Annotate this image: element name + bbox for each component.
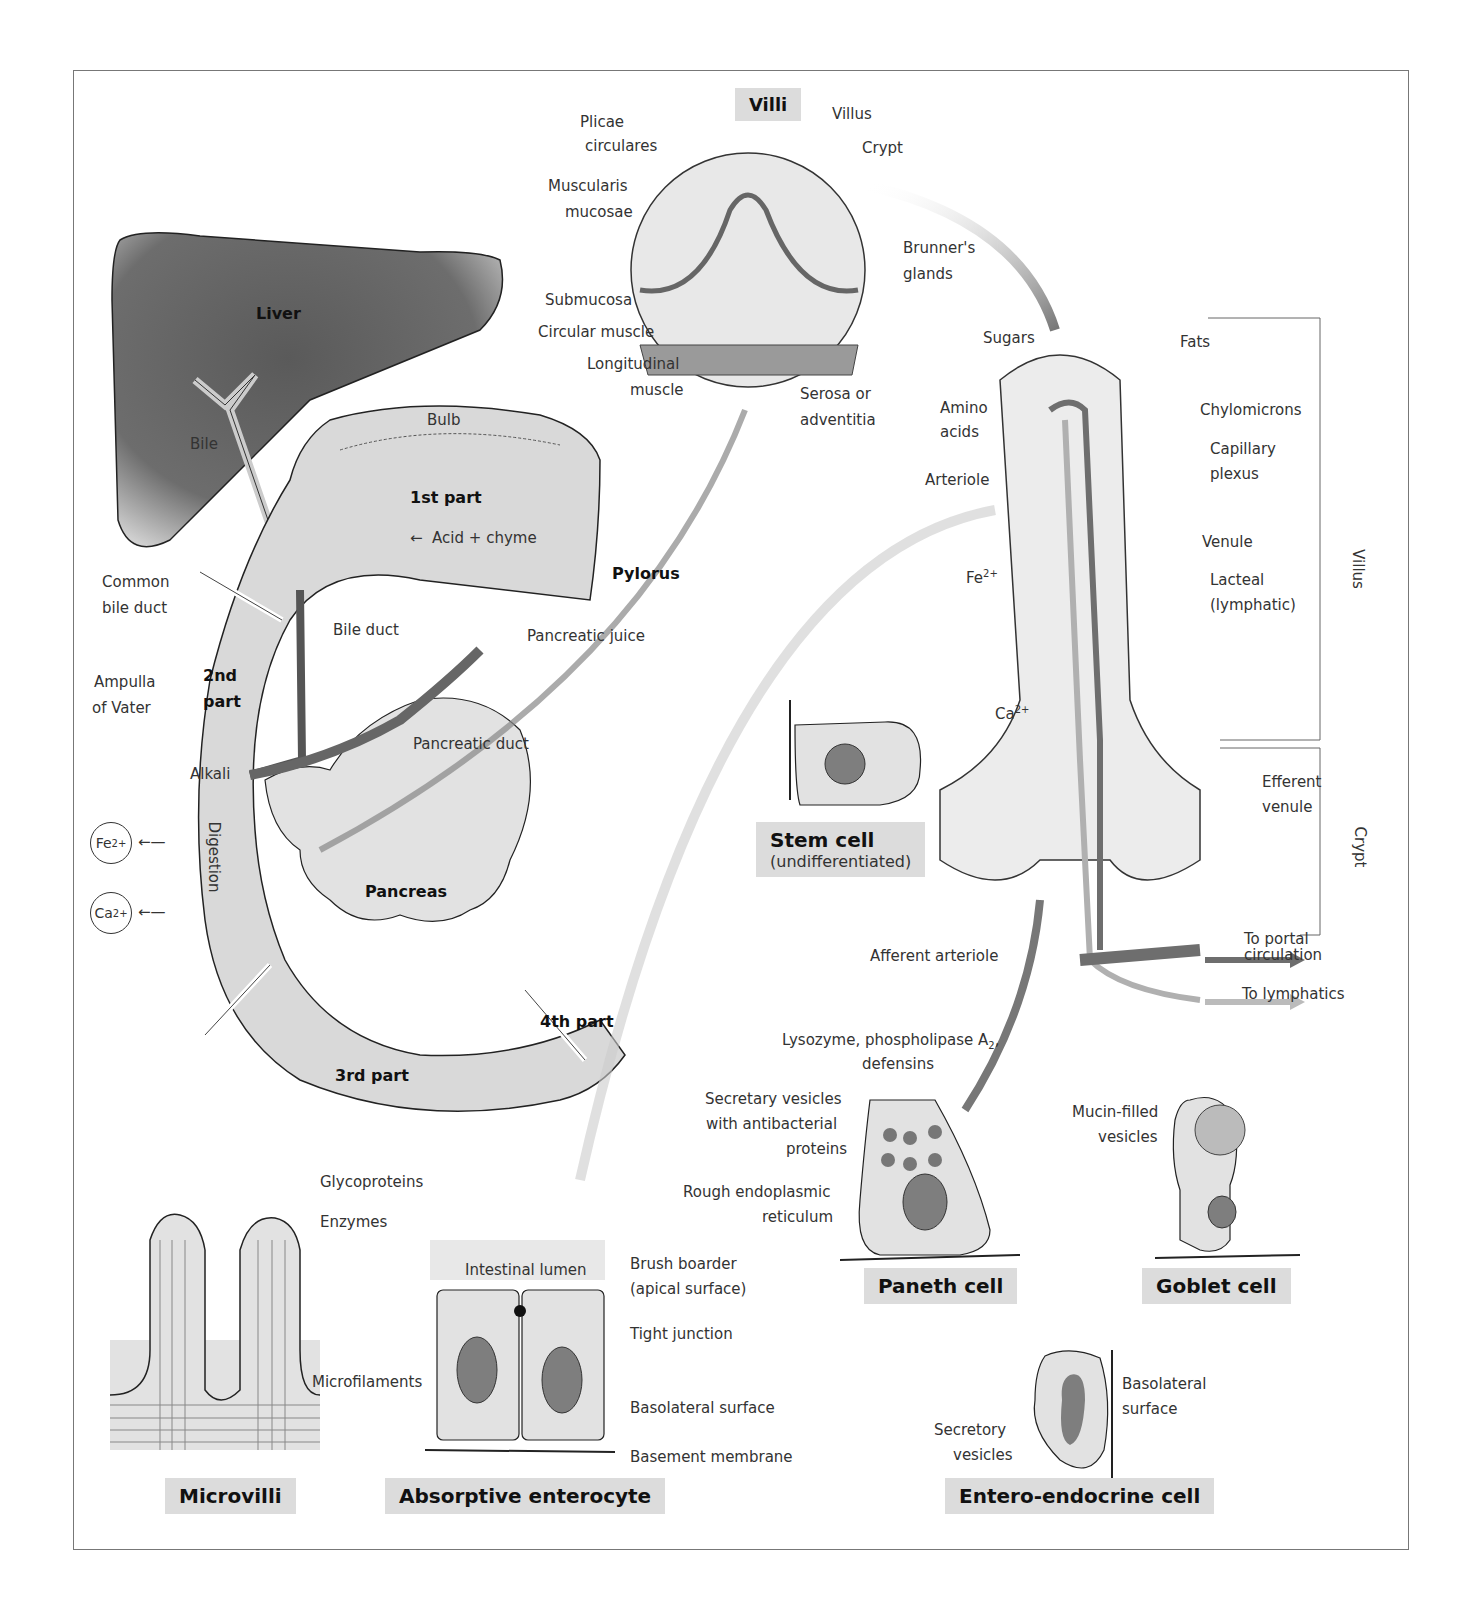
label-second-part-2: part [203,690,241,714]
label-liver: Liver [256,302,301,326]
label-ca-charge: 2+ [1015,704,1030,715]
label-capillary-1: Capillary [1210,437,1276,461]
stem-cell-shape [790,700,921,805]
enteroendocrine-title: Entero-endocrine cell [945,1478,1214,1514]
label-secretary-3: proteins [786,1137,847,1161]
label-basement: Basement membrane [630,1445,793,1469]
label-ee-basolateral-2: surface [1122,1397,1177,1421]
label-fe-charge: 2+ [983,568,998,579]
label-brunners-2: glands [903,262,953,286]
label-bile-duct: Bile duct [333,618,399,642]
label-common-bile-1: Common [102,570,170,594]
label-fourth-part: 4th part [540,1010,614,1034]
label-secretary-1: Secretary vesicles [705,1087,842,1111]
label-ca-symbol: Ca [995,705,1015,723]
label-pancreatic-duct: Pancreatic duct [413,732,529,756]
label-defensins: defensins [862,1052,934,1076]
label-microfilaments: Microfilaments [312,1370,422,1394]
label-chylomicrons: Chylomicrons [1200,398,1302,422]
label-first-part: 1st part [410,486,482,510]
label-rer-1: Rough endoplasmic [683,1180,830,1204]
stem-cell-subtitle: (undifferentiated) [770,852,911,871]
label-mucin-1: Mucin-filled [1072,1100,1158,1124]
label-brunners-1: Brunner's [903,236,975,260]
stem-cell-title-text: Stem cell [770,828,874,852]
label-to-portal-2: circulation [1244,946,1322,964]
ion-ca-symbol: Ca [94,905,112,921]
label-lacteal-1: Lacteal [1210,568,1264,592]
label-pancreas: Pancreas [365,880,447,904]
goblet-cell-shape [1155,1098,1300,1259]
label-ampulla-1: Ampulla [94,670,155,694]
label-villus: Villus [832,102,872,126]
bracket-crypt: Crypt [1351,827,1369,868]
label-pancreatic-juice: Pancreatic juice [527,624,645,648]
enteroendocrine-cell-shape [1034,1350,1112,1485]
label-rer-2: reticulum [762,1205,833,1229]
label-arteriole: Arteriole [925,468,989,492]
microvilli-title: Microvilli [165,1478,296,1514]
label-fats: Fats [1180,330,1210,354]
label-muscularis-2: mucosae [565,200,633,224]
diagram-artwork [0,0,1483,1620]
label-alkali: Alkali [190,762,230,786]
label-brush-1: Brush boarder [630,1252,737,1276]
paneth-cell-title: Paneth cell [864,1268,1017,1304]
label-brush-2: (apical surface) [630,1277,746,1301]
arrow-left-icon: ←— [138,830,166,854]
label-sugars: Sugars [983,326,1035,350]
lysozyme-comma: , [995,1031,1000,1049]
label-serosa-2: adventitia [800,408,876,432]
villi-title: Villi [735,88,801,121]
label-bile: Bile [190,432,218,456]
goblet-cell-title: Goblet cell [1142,1268,1291,1304]
label-second-part-1: 2nd [203,664,237,688]
label-basolateral: Basolateral surface [630,1396,775,1420]
paneth-cell-shape [840,1100,1020,1260]
label-crypt: Crypt [862,136,903,160]
label-serosa-1: Serosa or [800,382,871,406]
label-digestion: Digestion [205,821,223,892]
acid-chyme-text: Acid + chyme [432,529,537,547]
label-ee-basolateral-1: Basolateral [1122,1372,1206,1396]
ion-ca: Ca2+ [90,892,132,934]
label-mucin-2: vesicles [1098,1125,1158,1149]
microvilli-shape [110,1214,320,1450]
label-longitudinal-1: Longitudinal [587,352,679,376]
label-amino-2: acids [940,420,979,444]
label-fe-symbol: Fe [966,569,983,587]
bracket-villus: Villus [1349,549,1367,589]
label-efferent-1: Efferent [1262,770,1322,794]
ion-fe-charge: 2+ [112,838,127,849]
label-efferent-2: venule [1262,795,1313,819]
label-enzymes: Enzymes [320,1210,387,1234]
label-muscularis-1: Muscularis [548,174,628,198]
label-to-lymphatics: To lymphatics [1242,982,1345,1006]
label-longitudinal-2: muscle [630,378,684,402]
label-lacteal-2: (lymphatic) [1210,593,1296,617]
label-afferent: Afferent arteriole [870,944,998,968]
label-intestinal-lumen: Intestinal lumen [465,1258,587,1282]
ion-ca-charge: 2+ [113,908,128,919]
label-submucosa: Submucosa [545,288,632,312]
label-venule: Venule [1202,530,1253,554]
label-acid-chyme: ← Acid + chyme [410,526,537,550]
arrow-left-icon: ←— [138,900,166,924]
enterocyte-title: Absorptive enterocyte [385,1478,665,1514]
ion-fe-symbol: Fe [96,835,112,851]
label-pylorus: Pylorus [612,562,680,586]
label-ca: Ca2+ [995,698,1029,726]
lysozyme-text: Lysozyme, phospholipase A [782,1031,988,1049]
label-secretary-2: with antibacterial [706,1112,837,1136]
label-third-part: 3rd part [335,1064,409,1088]
label-ampulla-2: of Vater [92,696,151,720]
label-amino-1: Amino [940,396,988,420]
label-ee-secretory-1: Secretory [934,1418,1006,1442]
label-circular-muscle: Circular muscle [538,320,654,344]
label-plicae-1: Plicae [580,110,624,134]
label-plicae-2: circulares [585,134,657,158]
label-tight-junction: Tight junction [630,1322,733,1346]
ion-fe: Fe2+ [90,822,132,864]
label-ee-secretory-2: vesicles [953,1443,1013,1467]
stem-cell-title: Stem cell (undifferentiated) [756,822,925,877]
